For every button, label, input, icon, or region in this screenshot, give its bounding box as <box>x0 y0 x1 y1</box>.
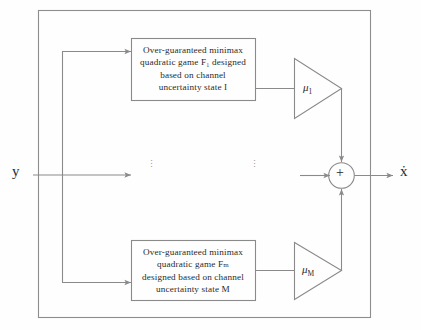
branch-M-block-line-2: quadratic game Fₘ <box>133 258 253 270</box>
branch-1-block-line-2: quadratic game F₁ designed <box>133 56 253 68</box>
branch-1-gain-subscript: 1 <box>309 87 313 96</box>
branch-1-block-line-4: uncertainty state I <box>133 81 253 93</box>
branch-1-block-line-3: based on channel <box>133 69 253 81</box>
input-label-y: y <box>12 163 20 180</box>
branch-1-block-label: Over-guaranteed minimax quadratic game F… <box>133 44 253 94</box>
branch-M-block-label: Over-guaranteed minimax quadratic game F… <box>133 246 253 296</box>
ellipsis-right: ⋮ <box>250 160 253 168</box>
output-label-xdot: ẋ <box>400 163 408 180</box>
diagram-canvas: Over-guaranteed minimax quadratic game F… <box>0 0 421 330</box>
ellipsis-left: ⋮ <box>147 160 150 168</box>
branch-1-gain-label: μ1 <box>303 81 312 96</box>
branch-M-gain-subscript: M <box>308 269 315 278</box>
branch-1-block-line-1: Over-guaranteed minimax <box>133 44 253 56</box>
branch-M-gain-label: μM <box>302 263 314 278</box>
branch-M-block-line-3: designed based on channel <box>133 271 253 283</box>
branch-M-block-line-1: Over-guaranteed minimax <box>133 246 253 258</box>
branch-M-block-line-4: uncertainty state M <box>133 283 253 295</box>
branch-1-gain-triangle <box>295 59 342 119</box>
sum-plus-symbol: + <box>336 166 344 180</box>
